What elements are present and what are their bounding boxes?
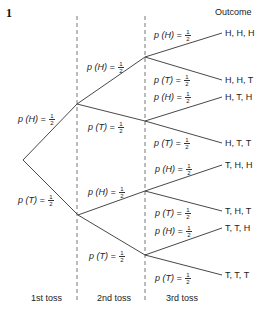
- prob-label-3-HTT: p (T) = 12: [154, 137, 190, 150]
- prob-label-2-TT: p (T) = 12: [89, 250, 125, 263]
- prob-label-3-THT: p (T) = 12: [155, 207, 191, 220]
- outcome-6: T, H, T: [225, 206, 251, 216]
- tree-lines: [0, 0, 266, 314]
- prob-label-1-T: p (T) = 12: [18, 194, 54, 207]
- outcome-7: T, T, H: [225, 223, 250, 233]
- outcome-3: H, T, H: [225, 92, 252, 102]
- outcome-8: T, T, T: [225, 270, 249, 280]
- prob-label-3-HHT: p (T) = 12: [154, 74, 190, 87]
- outcome-1: H, H, H: [225, 28, 255, 38]
- outcome-header: Outcome: [215, 7, 252, 17]
- outcome-5: T, H, H: [225, 160, 253, 170]
- outcome-2: H, H, T: [225, 75, 253, 85]
- prob-label-2-HH: p (H) = 12: [87, 61, 124, 74]
- prob-label-3-HHH: p (H) = 12: [154, 29, 191, 42]
- branch-2-HT: [77, 104, 145, 121]
- branch-2-TT: [78, 215, 145, 255]
- prob-label-2-TH: p (H) = 12: [88, 186, 125, 199]
- stage-label-3: 3rd toss: [166, 293, 198, 303]
- prob-label-3-HTH: p (H) = 12: [154, 91, 191, 104]
- prob-text: p (H) =: [18, 114, 48, 124]
- probability-tree-diagram: 1 Outcome p (H) = 12 p (T) = 12 p (H) = …: [0, 0, 266, 314]
- stage-label-1: 1st toss: [31, 293, 62, 303]
- prob-label-2-HT: p (T) = 12: [88, 121, 124, 134]
- prob-label-3-TTH: p (H) = 12: [155, 225, 192, 238]
- fraction: 12: [49, 113, 54, 126]
- outcome-4: H, T, T: [225, 138, 251, 148]
- prob-label-1-H: p (H) = 12: [18, 113, 55, 126]
- figure-number: 1: [6, 6, 12, 21]
- fraction: 12: [48, 194, 53, 207]
- stage-label-2: 2nd toss: [97, 293, 131, 303]
- prob-label-3-TTT: p (T) = 12: [155, 272, 191, 285]
- prob-label-3-THH: p (H) = 12: [155, 163, 192, 176]
